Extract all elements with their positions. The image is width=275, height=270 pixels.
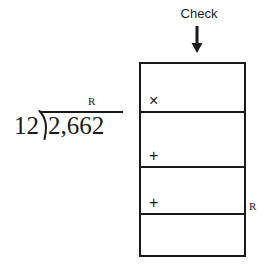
dividend: 2,662 (48, 113, 104, 138)
row-operator-plus: + (149, 195, 158, 211)
check-work-box[interactable]: × + + (139, 62, 246, 257)
table-row[interactable]: + (141, 113, 244, 168)
table-row[interactable] (141, 215, 244, 255)
table-row[interactable]: × (141, 64, 244, 113)
check-remainder-label: R (249, 201, 256, 212)
row-operator-plus: + (149, 148, 158, 164)
row-operator-multiply: × (149, 93, 158, 109)
arrow-down-icon (188, 26, 206, 58)
quotient-remainder-label: R (88, 96, 95, 107)
table-row[interactable]: + (141, 168, 244, 215)
worksheet-page: R 12 2,662 Check × + + (0, 0, 275, 270)
check-label: Check (171, 6, 227, 21)
divisor: 12 (14, 113, 39, 138)
